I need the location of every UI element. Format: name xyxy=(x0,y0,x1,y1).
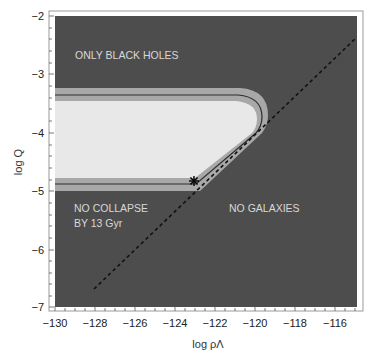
label-no-galaxies: NO GALAXIES xyxy=(229,202,300,214)
asterisk-marker xyxy=(189,176,199,186)
x-tick-label: −126 xyxy=(123,317,148,329)
chart: ONLY BLACK HOLES NO COLLAPSE BY 13 Gyr N… xyxy=(0,0,375,360)
x-tick-label: −120 xyxy=(243,317,268,329)
y-tick-label: −7 xyxy=(31,301,44,313)
x-tick-label: −122 xyxy=(203,317,228,329)
y-tick-label: −5 xyxy=(31,185,44,197)
x-tick-label: −124 xyxy=(163,317,188,329)
y-tick-label: −2 xyxy=(31,10,44,22)
label-by-13-gyr: BY 13 Gyr xyxy=(74,217,123,229)
x-axis-title: log ρΛ xyxy=(192,338,224,350)
x-tick-label: −116 xyxy=(323,317,347,329)
label-only-black-holes: ONLY BLACK HOLES xyxy=(75,49,179,61)
x-tick-label: −130 xyxy=(43,317,68,329)
y-axis-title: log Q xyxy=(12,148,24,175)
x-tick-label: −128 xyxy=(83,317,108,329)
y-tick-label: −4 xyxy=(31,127,44,139)
x-tick-label: −118 xyxy=(283,317,307,329)
y-tick-label: −6 xyxy=(31,244,44,256)
label-no-collapse: NO COLLAPSE xyxy=(74,202,148,214)
y-tick-label: −3 xyxy=(31,68,44,80)
